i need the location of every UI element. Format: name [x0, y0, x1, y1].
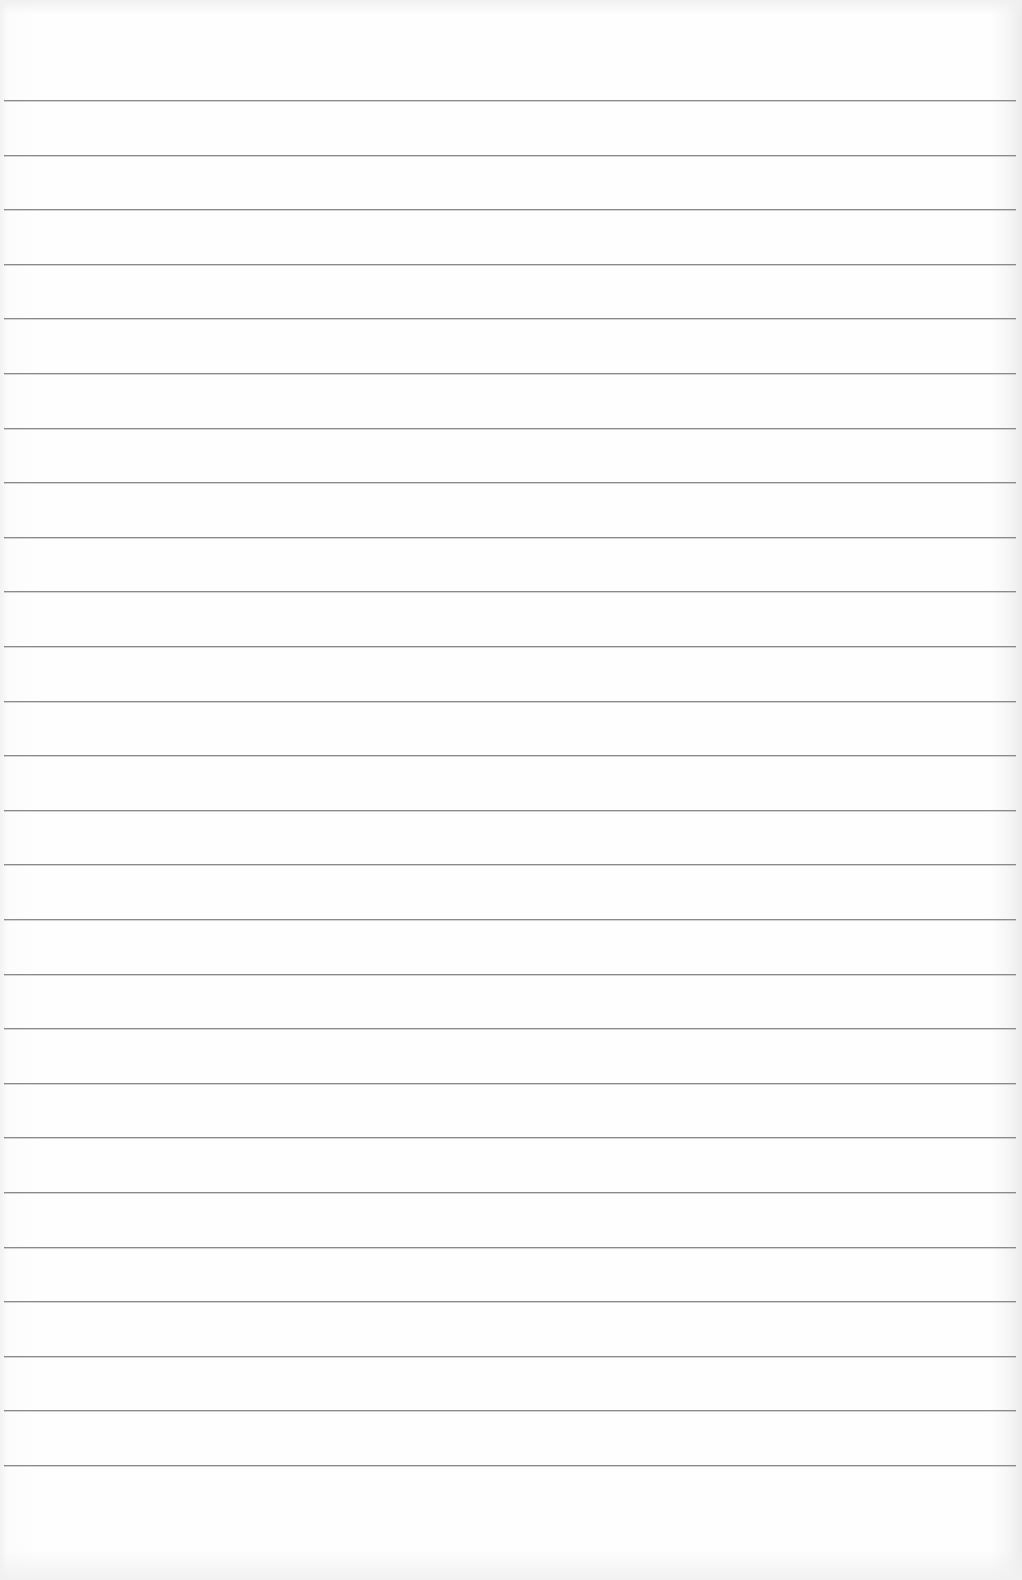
ruled-line	[4, 155, 1016, 156]
ruled-line	[4, 755, 1016, 756]
top-edge-shadow	[0, 0, 1022, 14]
ruled-line	[4, 1465, 1016, 1466]
ruled-line	[4, 100, 1016, 101]
bottom-edge-shadow	[0, 1550, 1022, 1580]
ruled-line	[4, 1137, 1016, 1138]
ruled-line	[4, 646, 1016, 647]
ruled-line	[4, 537, 1016, 538]
ruled-line	[4, 591, 1016, 592]
ruled-line	[4, 482, 1016, 483]
ruled-line	[4, 1028, 1016, 1029]
ruled-line	[4, 1301, 1016, 1302]
ruled-line	[4, 209, 1016, 210]
ruled-line	[4, 701, 1016, 702]
ruled-paper-page	[0, 0, 1022, 1580]
ruled-line	[4, 428, 1016, 429]
ruled-line	[4, 1247, 1016, 1248]
ruled-line	[4, 919, 1016, 920]
ruled-line	[4, 974, 1016, 975]
ruled-line	[4, 318, 1016, 319]
ruled-line	[4, 373, 1016, 374]
ruled-line	[4, 1410, 1016, 1411]
ruled-line	[4, 810, 1016, 811]
ruled-line	[4, 264, 1016, 265]
ruled-line	[4, 864, 1016, 865]
ruled-line	[4, 1356, 1016, 1357]
ruled-line	[4, 1083, 1016, 1084]
ruled-line	[4, 1192, 1016, 1193]
